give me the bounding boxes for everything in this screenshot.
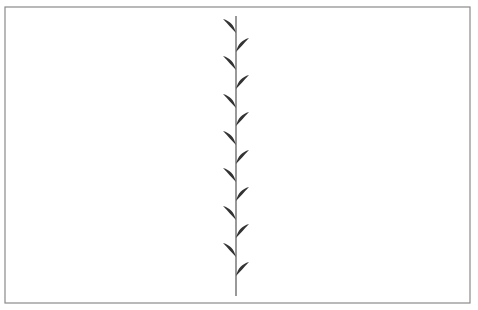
leaf-left-icon [223,168,236,182]
frame-border [5,7,470,303]
leaf-left-icon [223,56,236,70]
leaf-right-icon [236,262,249,276]
leaf-right-icon [236,150,249,164]
leaf-right-icon [236,187,249,201]
leaf-right-icon [236,224,249,238]
leaf-left-icon [223,243,236,257]
leaf-right-icon [236,38,249,52]
leaf-right-icon [236,112,249,126]
figure-canvas [0,0,478,310]
leaf-left-icon [223,94,236,108]
leaf-right-icon [236,75,249,89]
stem-diagram [0,0,478,310]
leaf-left-icon [223,131,236,145]
leaf-left-icon [223,19,236,33]
leaf-left-icon [223,206,236,220]
